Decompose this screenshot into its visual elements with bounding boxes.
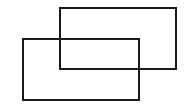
diagram-canvas (0, 0, 192, 110)
rectangle-lower-left (22, 38, 140, 101)
